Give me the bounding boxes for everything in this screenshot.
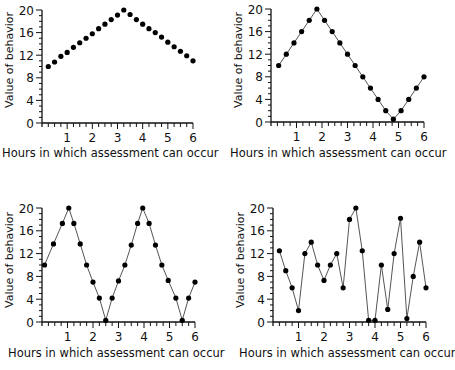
x-tick-label: 5 — [397, 330, 405, 344]
data-point — [302, 251, 307, 256]
y-tick-label: 0 — [257, 316, 265, 330]
x-tick-label: 2 — [320, 330, 328, 344]
data-point — [379, 262, 384, 267]
y-axis-label: Value of behavior — [234, 212, 247, 308]
data-point — [277, 248, 282, 253]
data-point — [334, 251, 339, 256]
y-tick-label: 12 — [250, 247, 265, 261]
x-tick-label: 4 — [371, 330, 379, 344]
data-point — [366, 318, 371, 323]
data-point — [283, 268, 288, 273]
y-tick-label: 4 — [257, 293, 265, 307]
y-tick-label: 16 — [250, 224, 265, 238]
x-tick-label: 1 — [295, 330, 303, 344]
data-point — [398, 216, 403, 221]
data-line — [279, 208, 426, 320]
data-point — [423, 285, 428, 290]
data-point — [315, 262, 320, 267]
data-point — [309, 240, 314, 245]
data-point — [372, 318, 377, 323]
data-point — [411, 274, 416, 279]
y-tick-label: 20 — [250, 202, 265, 216]
data-point — [347, 217, 352, 222]
data-point — [417, 240, 422, 245]
data-point — [385, 307, 390, 312]
data-point — [321, 278, 326, 283]
y-tick-label: 8 — [257, 270, 265, 284]
data-point — [392, 251, 397, 256]
x-tick-label: 6 — [422, 330, 430, 344]
data-point — [360, 248, 365, 253]
data-point — [404, 316, 409, 321]
data-point — [341, 285, 346, 290]
data-point — [353, 205, 358, 210]
data-point — [328, 262, 333, 267]
x-axis-label: Hours in which assessment can occur — [239, 346, 455, 360]
data-point — [290, 285, 295, 290]
x-tick-label: 3 — [346, 330, 354, 344]
data-point — [296, 308, 301, 313]
